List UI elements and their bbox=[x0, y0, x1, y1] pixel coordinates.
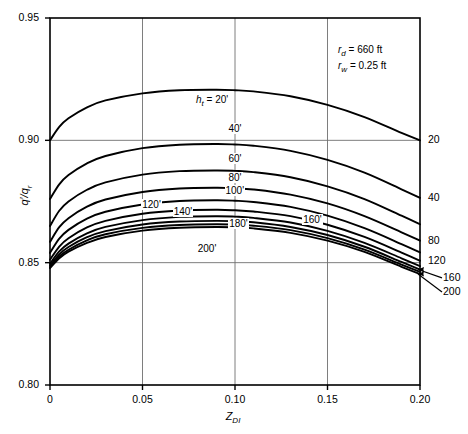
y-axis-label-text: q′/qr bbox=[18, 186, 30, 206]
series-title-subscript: t bbox=[202, 99, 204, 108]
annotation-rd: rd = 660 ft bbox=[338, 44, 382, 58]
y-tick-label: 0.90 bbox=[0, 133, 39, 145]
y-tick-label: 0.95 bbox=[0, 11, 39, 23]
right-series-label-80: 80 bbox=[428, 234, 440, 246]
curve-label-80ft: 80' bbox=[228, 172, 243, 183]
y-tick-label: 0.85 bbox=[0, 256, 39, 268]
right-series-label-120: 120 bbox=[428, 254, 446, 266]
curve-label-60ft: 60' bbox=[228, 153, 243, 164]
annotation-rd-subscript: d bbox=[341, 49, 345, 58]
curve-label-40ft: 40' bbox=[228, 123, 243, 134]
annotation-rw-subscript: w bbox=[341, 65, 347, 74]
annotation-rw-value: = 0.25 ft bbox=[350, 60, 386, 71]
x-tick-label: 0.15 bbox=[308, 393, 348, 405]
chart-figure bbox=[0, 0, 468, 434]
series-title-value: = 20' bbox=[207, 94, 229, 105]
y-tick-label: 0.80 bbox=[0, 378, 39, 390]
series-title-ht: ht = 20' bbox=[196, 94, 228, 108]
x-axis-label: ZDI bbox=[193, 410, 273, 425]
right-series-label-200: 200 bbox=[443, 285, 461, 297]
curve-label-160ft: 160' bbox=[302, 214, 323, 225]
y-axis-label: q′/qr bbox=[18, 176, 33, 216]
x-tick-label: 0 bbox=[30, 393, 70, 405]
curve-label-120ft: 120' bbox=[141, 199, 162, 210]
x-tick-label: 0.20 bbox=[400, 393, 440, 405]
right-series-label-160: 160 bbox=[443, 271, 461, 283]
curve-label-200ft: 200' bbox=[197, 243, 218, 254]
annotation-rd-value: = 660 ft bbox=[349, 44, 383, 55]
x-tick-label: 0.10 bbox=[215, 393, 255, 405]
annotation-rw: rw = 0.25 ft bbox=[338, 60, 386, 74]
right-series-label-40: 40 bbox=[428, 191, 440, 203]
x-tick-label: 0.05 bbox=[123, 393, 163, 405]
curve-label-140ft: 140' bbox=[173, 206, 194, 217]
x-axis-label-sub: DI bbox=[232, 416, 240, 425]
right-series-label-20: 20 bbox=[428, 133, 440, 145]
curve-label-100ft: 100' bbox=[225, 185, 246, 196]
curve-label-180ft: 180' bbox=[228, 218, 249, 229]
